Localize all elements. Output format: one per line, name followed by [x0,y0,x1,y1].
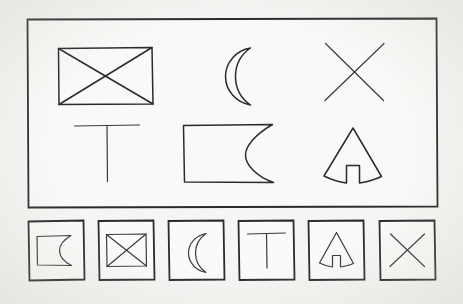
thumbnail-border [309,221,365,281]
thumbnail-box-3[interactable] [169,221,225,281]
thumbnail-box-1[interactable] [29,221,85,281]
thumbnail-strip [29,221,436,281]
drawing-canvas [0,0,463,304]
thumbnail-box-2[interactable] [99,221,155,281]
thumbnail-box-4[interactable] [239,221,295,281]
thumbnail-border [169,221,225,281]
main-shape-panel[interactable] [28,19,438,208]
shape-sheet [0,0,463,304]
thumbnail-box-5[interactable] [309,221,365,281]
thumbnail-box-6[interactable] [380,221,436,281]
